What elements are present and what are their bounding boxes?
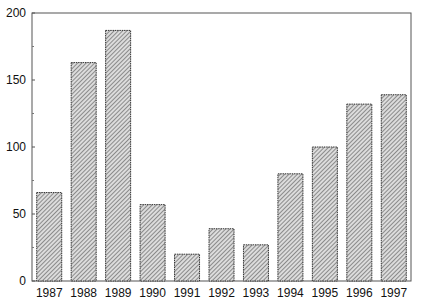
bar-1987 — [37, 193, 62, 281]
x-tick-label: 1992 — [208, 286, 235, 300]
x-tick-label: 1997 — [380, 286, 407, 300]
y-tick-label: 200 — [6, 6, 26, 20]
bar-1990 — [140, 205, 165, 281]
x-axis: 1987198819891990199119921993199419951996… — [36, 286, 408, 300]
bar-1991 — [175, 254, 200, 281]
y-tick-label: 50 — [13, 207, 27, 221]
x-tick-label: 1995 — [312, 286, 339, 300]
x-tick-label: 1994 — [277, 286, 304, 300]
x-tick-label: 1990 — [139, 286, 166, 300]
bar-1995 — [312, 147, 337, 281]
bar-1996 — [347, 104, 372, 281]
x-tick-label: 1988 — [70, 286, 97, 300]
bar-1997 — [381, 95, 406, 281]
y-tick-label: 150 — [6, 73, 26, 87]
bar-1993 — [243, 245, 268, 281]
y-axis: 050100150200 — [6, 6, 35, 288]
x-tick-label: 1987 — [36, 286, 63, 300]
y-tick-label: 0 — [19, 274, 26, 288]
bar-1989 — [106, 30, 131, 281]
bar-1992 — [209, 229, 234, 281]
y-tick-label: 100 — [6, 140, 26, 154]
x-tick-label: 1989 — [105, 286, 132, 300]
bars — [37, 30, 407, 281]
x-tick-label: 1991 — [174, 286, 201, 300]
x-tick-label: 1993 — [243, 286, 270, 300]
bar-1988 — [71, 63, 96, 281]
bar-1994 — [278, 174, 303, 281]
bar-chart: 050100150200 198719881989199019911992199… — [0, 0, 424, 307]
x-tick-label: 1996 — [346, 286, 373, 300]
